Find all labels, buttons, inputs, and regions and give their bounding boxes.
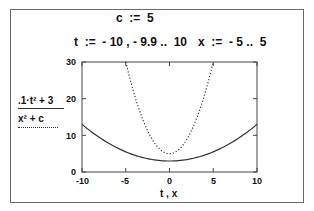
series-solid-curve — [82, 124, 257, 161]
series-dotted-curve — [126, 62, 214, 154]
plot-frame — [82, 62, 257, 172]
plot-area[interactable] — [0, 0, 314, 211]
